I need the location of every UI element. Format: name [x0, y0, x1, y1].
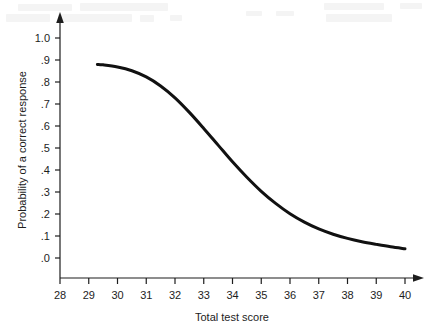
y-tick-labels: 1.0 .9 .8 .7 .6 .5 .4 .3 .2 .1 .0 [35, 32, 50, 264]
x-tick-label: 30 [111, 289, 123, 301]
y-tick-label: .9 [41, 54, 50, 66]
x-tick-label: 31 [140, 289, 152, 301]
y-tick-marks [55, 38, 60, 258]
x-tick-label: 36 [284, 289, 296, 301]
y-tick-label: .5 [41, 142, 50, 154]
x-tick-labels: 28 29 30 31 32 33 34 35 36 37 38 39 40 [54, 289, 411, 301]
x-axis-title: Total test score [195, 311, 269, 323]
figure-container: 1.0 .9 .8 .7 .6 .5 .4 .3 .2 .1 .0 [0, 0, 438, 332]
x-tick-label: 35 [255, 289, 267, 301]
x-tick-label: 39 [370, 289, 382, 301]
y-tick-label: .8 [41, 76, 50, 88]
chart-plot: 1.0 .9 .8 .7 .6 .5 .4 .3 .2 .1 .0 [0, 0, 438, 332]
y-tick-label: .7 [41, 98, 50, 110]
x-tick-label: 38 [341, 289, 353, 301]
y-tick-label: .3 [41, 186, 50, 198]
x-tick-label: 34 [226, 289, 238, 301]
x-tick-label: 37 [313, 289, 325, 301]
x-tick-label: 28 [54, 289, 66, 301]
x-tick-label: 33 [198, 289, 210, 301]
y-tick-label: 1.0 [35, 32, 50, 44]
y-tick-label: .6 [41, 120, 50, 132]
x-axis-arrow-icon [413, 274, 424, 282]
x-tick-marks [60, 278, 405, 284]
y-axis-arrow-icon [56, 12, 64, 23]
y-axis-title: Probability of a correct response [16, 71, 28, 229]
x-tick-label: 40 [399, 289, 411, 301]
y-tick-label: .2 [41, 208, 50, 220]
x-tick-label: 32 [169, 289, 181, 301]
y-tick-label: .4 [41, 164, 50, 176]
y-tick-label: .0 [41, 252, 50, 264]
data-curve-item-characteristic [97, 64, 405, 248]
x-tick-label: 29 [83, 289, 95, 301]
y-tick-label: .1 [41, 230, 50, 242]
